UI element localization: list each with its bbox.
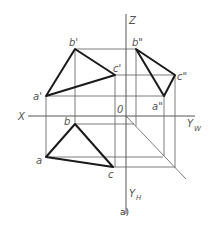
side-view-triangle (136, 49, 175, 96)
yh-axis-label: Y (129, 188, 136, 199)
origin-label: 0 (117, 104, 123, 115)
label-a-double-prime: a" (152, 101, 163, 112)
x-axis-label: X (17, 111, 26, 122)
yh-axis-sub: H (136, 194, 142, 202)
figure-caption: a) (120, 207, 129, 217)
top-view-triangle (46, 124, 113, 167)
label-c: c (108, 169, 114, 180)
orthographic-projection-diagram: Z X 0 Y W Y H b' a' c' b" c" a" b a c a) (0, 0, 210, 232)
label-b: b (64, 116, 70, 127)
label-a-prime: a' (33, 91, 42, 102)
label-b-prime: b' (69, 37, 78, 48)
label-c-double-prime: c" (177, 71, 187, 82)
z-axis-label: Z (128, 15, 137, 26)
label-a: a (36, 155, 42, 166)
miter-line-45deg (126, 116, 186, 179)
label-b-double-prime: b" (132, 37, 143, 48)
front-view-triangle (46, 49, 115, 96)
yw-axis-sub: W (194, 125, 202, 133)
yw-axis-label: Y (187, 118, 194, 129)
label-c-prime: c' (113, 63, 121, 74)
